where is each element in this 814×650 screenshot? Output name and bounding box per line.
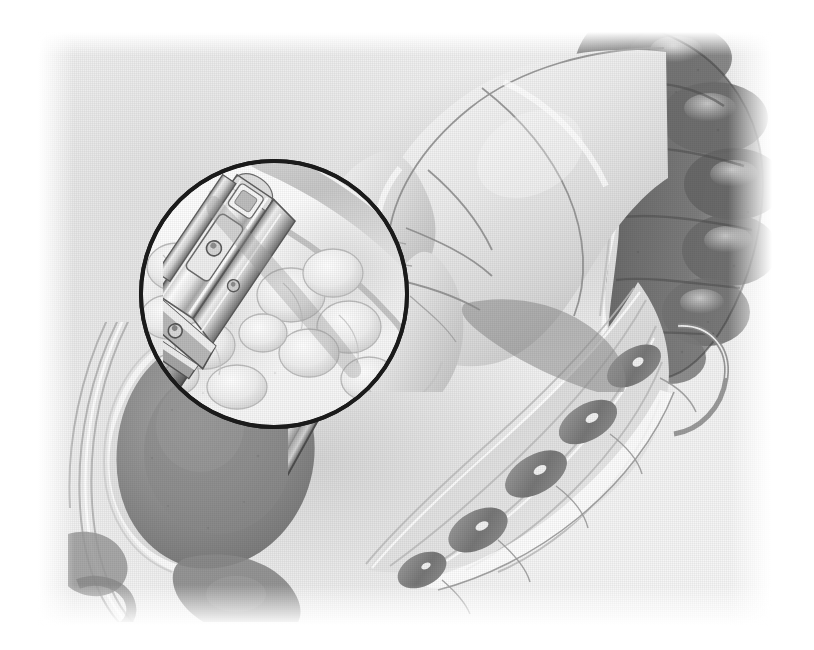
mesentery: [338, 282, 772, 622]
inset-fat-lobules: [143, 203, 405, 425]
inset-field: [143, 163, 405, 425]
illustration-canvas: close-up of the surgical stapler / clip …: [0, 0, 814, 650]
inset-instrument-shadow: [143, 163, 405, 425]
colon: [558, 32, 772, 452]
magnified-detail-inset: [143, 163, 405, 425]
inset-tissue-band: [143, 163, 405, 425]
illustration-plate: [38, 32, 772, 626]
surgical-stapler: [163, 173, 405, 425]
